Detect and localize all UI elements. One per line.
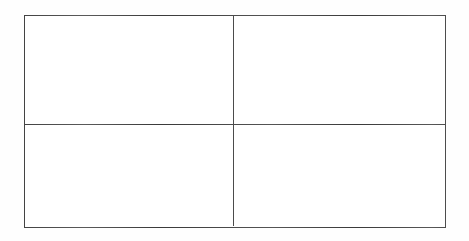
table-grid	[24, 15, 446, 228]
table-cell-r2c2[interactable]	[234, 125, 445, 226]
table-cell-r2c1[interactable]	[25, 125, 234, 226]
table-row	[25, 125, 445, 226]
table-row	[25, 16, 445, 125]
table-cell-r1c2[interactable]	[234, 16, 445, 124]
table-cell-r1c1[interactable]	[25, 16, 234, 124]
